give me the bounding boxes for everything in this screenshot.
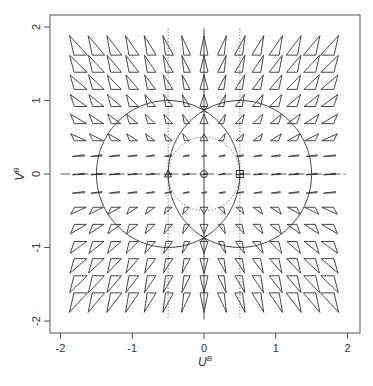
triangle-glyph (287, 134, 300, 141)
triangle-glyph (253, 207, 263, 214)
triangle-glyph (322, 224, 338, 234)
triangle-glyph (303, 36, 320, 56)
x-tick-label: -1 (127, 342, 137, 354)
triangle-glyph (304, 242, 319, 254)
triangle-glyph (108, 224, 121, 234)
triangle-glyph (324, 192, 336, 194)
triangle-glyph (144, 293, 156, 313)
triangle-glyph (287, 224, 300, 234)
x-tick-label: -2 (56, 342, 66, 354)
triangle-glyph (91, 155, 102, 157)
triangle-glyph (70, 95, 87, 107)
triangle-glyph (236, 224, 245, 234)
x-tick-label: 1 (273, 342, 279, 354)
triangle-glyph (253, 95, 264, 107)
triangle-glyph (70, 242, 87, 254)
triangle-glyph (271, 192, 280, 194)
triangle-glyph (126, 276, 139, 293)
triangle-glyph (270, 207, 281, 214)
triangle-glyph (218, 242, 226, 254)
triangle-glyph (145, 134, 155, 141)
triangle-glyph (218, 75, 226, 90)
triangle-glyph (89, 242, 104, 254)
triangle-glyph (71, 134, 87, 141)
triangle-glyph (218, 224, 225, 234)
triangle-glyph (69, 293, 87, 313)
triangle-glyph (108, 134, 121, 141)
triangle-glyph (219, 207, 226, 214)
triangle-glyph (253, 242, 264, 254)
triangle-glyph (321, 75, 338, 90)
triangle-glyph (89, 224, 104, 234)
triangle-glyph (145, 75, 156, 90)
triangle-glyph (89, 75, 105, 90)
triangle-glyph (88, 293, 105, 313)
triangle-glyph (126, 36, 140, 56)
triangle-glyph (89, 134, 103, 141)
triangle-glyph (287, 207, 300, 214)
triangle-glyph (126, 293, 140, 313)
triangle-glyph (145, 114, 155, 124)
triangle-glyph (287, 114, 300, 124)
triangle-glyph (269, 293, 283, 313)
triangle-glyph (322, 134, 338, 141)
triangle-glyph (163, 259, 173, 274)
triangle-glyph (304, 95, 319, 107)
triangle-glyph (183, 134, 190, 141)
y-tick-label: 1 (30, 97, 42, 103)
y-axis: -2-1012 (30, 24, 50, 326)
triangle-glyph (219, 155, 225, 157)
triangle-glyph (126, 55, 139, 72)
triangle-glyph (306, 192, 317, 194)
triangle-glyph (321, 293, 339, 313)
triangle-glyph (218, 276, 227, 293)
triangle-glyph (144, 276, 156, 293)
triangle-glyph (70, 259, 87, 274)
triangle-glyph (91, 192, 102, 194)
triangle-glyph (146, 155, 154, 157)
triangle-glyph (306, 155, 317, 157)
triangle-glyph (126, 259, 139, 274)
triangle-glyph (163, 293, 174, 313)
triangle-glyph (88, 55, 104, 72)
triangle-glyph (304, 75, 320, 90)
triangle-glyph (145, 224, 155, 234)
triangle-glyph (182, 259, 190, 274)
triangle-glyph (321, 55, 339, 72)
triangle-glyph (253, 114, 263, 124)
triangle-glyph (69, 36, 87, 56)
triangle-glyph (217, 293, 226, 313)
triangle-glyph (253, 224, 263, 234)
x-axis-title: UB (198, 354, 213, 369)
triangle-glyph (182, 55, 191, 72)
triangle-glyph (218, 95, 226, 107)
triangle-glyph (253, 134, 263, 141)
triangle-glyph (287, 259, 301, 274)
triangle-glyph (126, 242, 138, 254)
triangle-glyph (322, 114, 338, 124)
triangle-glyph (322, 207, 338, 214)
triangle-glyph (127, 134, 138, 141)
triangle-glyph (271, 155, 280, 157)
triangle-glyph (127, 224, 139, 234)
triangle-glyph (218, 114, 225, 124)
triangle-glyph (109, 192, 119, 194)
triangle-glyph (269, 36, 283, 56)
triangle-glyph (235, 259, 245, 274)
triangle-glyph (321, 242, 338, 254)
triangle-glyph (88, 36, 105, 56)
triangle-glyph (217, 36, 226, 56)
triangle-glyph (89, 114, 104, 124)
triangle-glyph (270, 134, 281, 141)
triangle-glyph (235, 293, 246, 313)
triangle-glyph (219, 192, 225, 194)
triangle-glyph (182, 75, 190, 90)
triangle-glyph (286, 55, 301, 72)
triangle-glyph (182, 276, 191, 293)
triangle-glyph (70, 276, 88, 293)
y-tick-label: -2 (30, 316, 42, 326)
triangle-glyph (289, 155, 299, 157)
triangle-glyph (183, 155, 189, 157)
triangle-glyph (144, 36, 156, 56)
triangle-glyph (182, 95, 190, 107)
